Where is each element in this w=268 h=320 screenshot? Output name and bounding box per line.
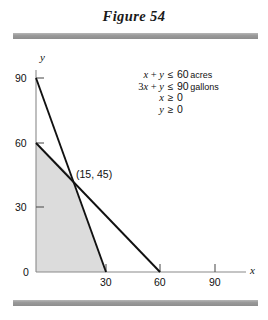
x-tick-label-60: 60 xyxy=(154,276,166,288)
constraint-plus: + xyxy=(151,69,157,80)
constraint-rhs: 60 xyxy=(177,69,189,81)
page-title: Figure 54 xyxy=(0,8,268,25)
y-axis-label: y xyxy=(40,51,45,63)
constraint-unit: acres xyxy=(190,70,212,80)
constraint-relation: ≤ xyxy=(164,69,177,81)
vertex-annotation: (15, 45) xyxy=(76,168,112,180)
y-tick-label-90: 90 xyxy=(15,72,27,84)
constraint-lhs: x + y xyxy=(134,69,164,81)
constraint-plus: + xyxy=(151,81,157,92)
origin-label: 0 xyxy=(23,266,29,278)
divider-bottom xyxy=(13,300,258,306)
constraint-lhs: y xyxy=(134,104,164,116)
y-tick-label-60: 60 xyxy=(15,137,27,149)
constraint-var-x: x xyxy=(143,69,148,80)
feasible-region-polygon xyxy=(36,143,106,272)
constraint-system: x + y≤60acres 3x + y≤90gallons x≥0 y≥0 xyxy=(134,69,219,115)
constraint-lhs: 3x + y xyxy=(134,81,164,93)
constraint-rhs: 0 xyxy=(177,104,183,116)
divider-top xyxy=(13,33,258,39)
x-tick-label-90: 90 xyxy=(209,276,221,288)
x-tick-label-30: 30 xyxy=(100,276,112,288)
figure-container: Figure 54 90 60 30 0 xyxy=(0,0,268,320)
constraint-row-acres: x + y≤60acres xyxy=(134,69,219,81)
constraint-var-x: x xyxy=(143,81,148,92)
constraint-row-y-nonneg: y≥0 xyxy=(134,104,219,116)
constraint-unit: gallons xyxy=(190,82,219,92)
constraint-lhs: x xyxy=(134,92,164,104)
x-axis-label: x xyxy=(250,264,255,276)
constraint-relation: ≥ xyxy=(164,92,177,104)
constraint-relation: ≥ xyxy=(164,104,177,116)
y-tick-label-30: 30 xyxy=(15,201,27,213)
constraint-relation: ≤ xyxy=(164,81,177,93)
